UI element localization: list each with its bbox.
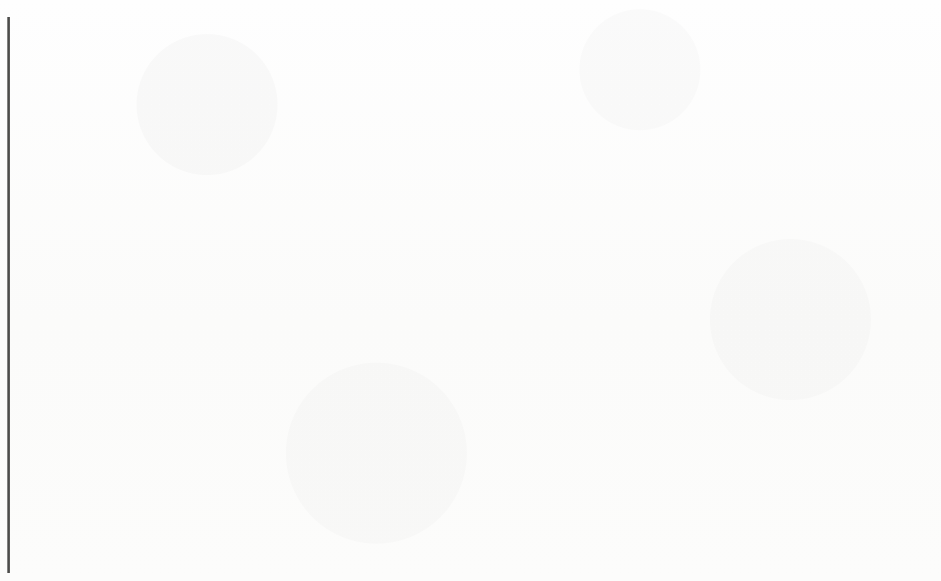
bottom-y-ticks: [110, 299, 120, 504]
top-y-ticks: [110, 51, 120, 238]
top-x-ticks: [110, 228, 893, 238]
panel-top: [110, 51, 893, 238]
scan-edge-artifact: [7, 17, 10, 573]
trend-line: [644, 308, 858, 369]
bottom-x-ticks: [110, 494, 893, 504]
top-axes: [110, 51, 893, 238]
bottom-axes: [110, 299, 893, 504]
panel-bottom: [0, 299, 893, 504]
two-panel-line-chart: [0, 0, 941, 581]
figure-page: [0, 0, 941, 581]
